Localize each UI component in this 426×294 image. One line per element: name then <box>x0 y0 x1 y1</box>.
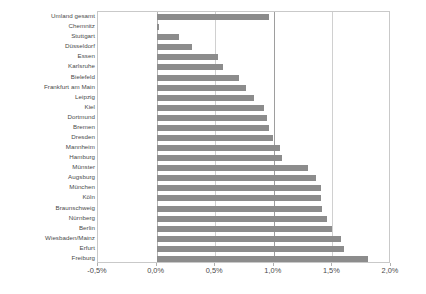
category-label: München <box>69 184 95 190</box>
bar-row <box>98 203 389 213</box>
category-label: Dortmund <box>67 114 95 120</box>
bar <box>157 216 327 222</box>
bar-row <box>98 42 389 52</box>
bar-row <box>98 113 389 123</box>
bar-row <box>98 173 389 183</box>
bar <box>157 34 179 40</box>
bar-row <box>98 22 389 32</box>
bar-chart: Umland gesamtChemnitzStuttgartDüsseldorf… <box>0 0 426 294</box>
category-label: Wiesbaden/Mainz <box>45 235 95 241</box>
bar-row <box>98 72 389 82</box>
bar-row <box>98 83 389 93</box>
category-label: Kiel <box>84 104 95 110</box>
value-tick-mark <box>273 263 274 266</box>
category-label: Karlsruhe <box>68 63 95 69</box>
value-tick-mark <box>390 263 391 266</box>
value-tick-label: 1,5% <box>323 266 340 275</box>
bar-row <box>98 103 389 113</box>
bar <box>157 14 270 20</box>
category-label: Braunschweig <box>56 204 95 210</box>
bar <box>157 75 239 81</box>
bar <box>157 195 321 201</box>
bar <box>157 125 270 131</box>
bar-row <box>98 32 389 42</box>
bar-row <box>98 254 389 264</box>
bar-row <box>98 133 389 143</box>
category-label: Münster <box>72 164 95 170</box>
bar <box>157 95 254 101</box>
bar <box>157 155 282 161</box>
category-label: Dresden <box>71 134 95 140</box>
value-tick-mark <box>214 263 215 266</box>
bar <box>157 24 159 30</box>
bar <box>157 105 265 111</box>
category-label: Frankfurt am Main <box>44 83 95 89</box>
bar-row <box>98 153 389 163</box>
plot-area <box>97 11 390 263</box>
bar <box>157 256 368 262</box>
category-label: Erfurt <box>80 245 95 251</box>
bar-row <box>98 234 389 244</box>
category-label: Berlin <box>79 225 95 231</box>
bar <box>157 85 246 91</box>
value-tick-mark <box>156 263 157 266</box>
bar-row <box>98 123 389 133</box>
value-tick-label: 1,0% <box>264 266 281 275</box>
category-label: Freiburg <box>72 255 95 261</box>
value-tick-mark <box>97 263 98 266</box>
value-tick-label: 0,0% <box>147 266 164 275</box>
bar <box>157 54 218 60</box>
bar <box>157 185 321 191</box>
category-label: Umland gesamt <box>51 13 95 19</box>
value-tick-mark <box>331 263 332 266</box>
value-tick-label: 2,0% <box>382 266 399 275</box>
value-tick-label: -0,5% <box>87 266 106 275</box>
category-label: Bremen <box>73 124 95 130</box>
bar-row <box>98 163 389 173</box>
bar <box>157 64 224 70</box>
category-label: Essen <box>78 53 95 59</box>
bar-row <box>98 224 389 234</box>
bar-row <box>98 52 389 62</box>
category-label: Hamburg <box>69 154 95 160</box>
category-label: Chemnitz <box>68 23 95 29</box>
category-axis-labels: Umland gesamtChemnitzStuttgartDüsseldorf… <box>0 11 95 263</box>
bar <box>157 145 280 151</box>
category-label: Augsburg <box>68 174 95 180</box>
category-label: Bielefeld <box>71 73 95 79</box>
value-tick-label: 0,5% <box>206 266 223 275</box>
category-label: Köln <box>82 194 95 200</box>
bar <box>157 44 192 50</box>
bar-row <box>98 244 389 254</box>
bar <box>157 175 316 181</box>
bar-row <box>98 93 389 103</box>
bar <box>157 206 322 212</box>
bar-row <box>98 193 389 203</box>
bar <box>157 135 273 141</box>
bar <box>157 115 267 121</box>
bar-row <box>98 62 389 72</box>
bar <box>157 226 333 232</box>
bar-rows <box>98 12 389 262</box>
category-label: Mannheim <box>66 144 95 150</box>
value-axis-labels: -0,5%0,0%0,5%1,0%1,5%2,0% <box>0 266 426 282</box>
bar-row <box>98 143 389 153</box>
bar <box>157 246 345 252</box>
bar <box>157 165 308 171</box>
category-label: Stuttgart <box>71 33 95 39</box>
category-label: Nürnberg <box>69 215 95 221</box>
category-label: Leipzig <box>75 94 95 100</box>
bar-row <box>98 12 389 22</box>
bar-row <box>98 183 389 193</box>
bar <box>157 236 341 242</box>
category-label: Düsseldorf <box>65 43 95 49</box>
bar-row <box>98 214 389 224</box>
